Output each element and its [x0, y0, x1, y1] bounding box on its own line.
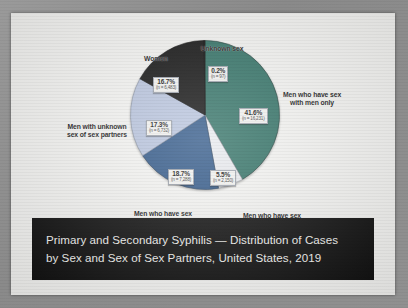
slice-count: (n = 6,483) [156, 86, 176, 91]
slice-value-unknown-sex: 0.2% (n = 97) [208, 66, 228, 82]
slice-count: (n = 2,150) [213, 179, 233, 184]
callout-line: Women [144, 55, 168, 63]
callout-label-msm-only: Men who have sex with men only [283, 91, 341, 108]
slice-count: (n = 16,231) [242, 117, 265, 122]
callout-label-unknown-sex: Unknown sex [179, 45, 265, 53]
slice-count: (n = 6,732) [149, 129, 169, 134]
slice-value-women: 16.7% (n = 6,483) [153, 77, 179, 93]
slice-value-msw-only: 18.7% (n = 7,288) [168, 169, 194, 185]
slice-count: (n = 97) [211, 75, 225, 80]
callout-line: sex of sex partners [47, 131, 147, 139]
callout-label-women: Women [144, 55, 168, 63]
slice-count: (n = 7,288) [171, 178, 191, 183]
chart-title-banner: Primary and Secondary Syphilis — Distrib… [32, 218, 374, 280]
pie-chart-area: 0.2% (n = 97) 41.6% (n = 16,231) 16.7% (… [11, 13, 395, 227]
callout-label-unknown-partners: Men with unknown sex of sex partners [47, 123, 147, 140]
slice-value-unknown-partners: 17.3% (n = 6,732) [146, 120, 172, 136]
slice-value-msm-and-women: 5.5% (n = 2,150) [210, 170, 236, 186]
slice-value-msm-only: 41.6% (n = 16,231) [239, 108, 268, 124]
chart-title-line-1: Primary and Secondary Syphilis — Distrib… [46, 231, 360, 249]
callout-line: with men only [283, 99, 341, 107]
slide-card: 0.2% (n = 97) 41.6% (n = 16,231) 16.7% (… [11, 13, 395, 295]
chart-title-line-2: by Sex and Sex of Sex Partners, United S… [46, 249, 360, 267]
scanned-page-background: 0.2% (n = 97) 41.6% (n = 16,231) 16.7% (… [0, 0, 408, 308]
callout-line: Unknown sex [179, 45, 265, 53]
